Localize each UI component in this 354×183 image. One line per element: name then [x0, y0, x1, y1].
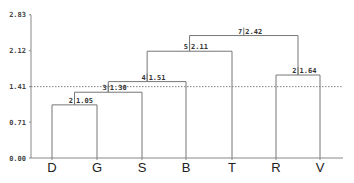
y-tick-label: 1.41 [9, 83, 26, 91]
dendrogram-link [190, 36, 298, 75]
merge-labels: 21.0531.3041.5152.1121.6472.42 [69, 28, 317, 105]
merge-height-label: 2.11 [191, 43, 208, 51]
merge-count-label: 3 [103, 84, 107, 92]
merge-count-label: 2 [69, 97, 73, 105]
dendrogram-chart: 0.000.711.412.122.83 21.0531.3041.5152.1… [0, 0, 354, 183]
leaf-label: R [271, 160, 280, 175]
merge-count-label: 4 [141, 74, 145, 82]
merge-height-label: 1.51 [149, 74, 166, 82]
merge-height-label: 1.05 [76, 97, 93, 105]
leaf-label: S [138, 160, 147, 175]
merge-count-label: 5 [184, 43, 188, 51]
leaf-label: B [182, 160, 191, 175]
y-tick-label: 2.12 [9, 47, 26, 55]
dendrogram-link [108, 82, 186, 158]
merge-height-label: 1.64 [300, 67, 317, 75]
leaf-label: G [92, 160, 102, 175]
merge-height-label: 2.42 [245, 28, 262, 36]
leaf-labels: DGSBTRV [47, 158, 324, 175]
merge-count-label: 2 [292, 67, 296, 75]
merge-count-label: 7 [238, 28, 242, 36]
y-tick-label: 0.00 [9, 155, 26, 163]
leaf-label: V [316, 160, 325, 175]
leaf-label: T [228, 160, 236, 175]
dendrogram-link [52, 105, 97, 158]
dendrogram-link [276, 75, 320, 158]
merge-height-label: 1.30 [110, 84, 127, 92]
leaf-label: D [47, 160, 56, 175]
dendrogram-link [147, 51, 232, 158]
y-tick-label: 0.71 [9, 119, 26, 127]
y-axis: 0.000.711.412.122.83 [9, 11, 31, 162]
y-tick-label: 2.83 [9, 11, 26, 19]
